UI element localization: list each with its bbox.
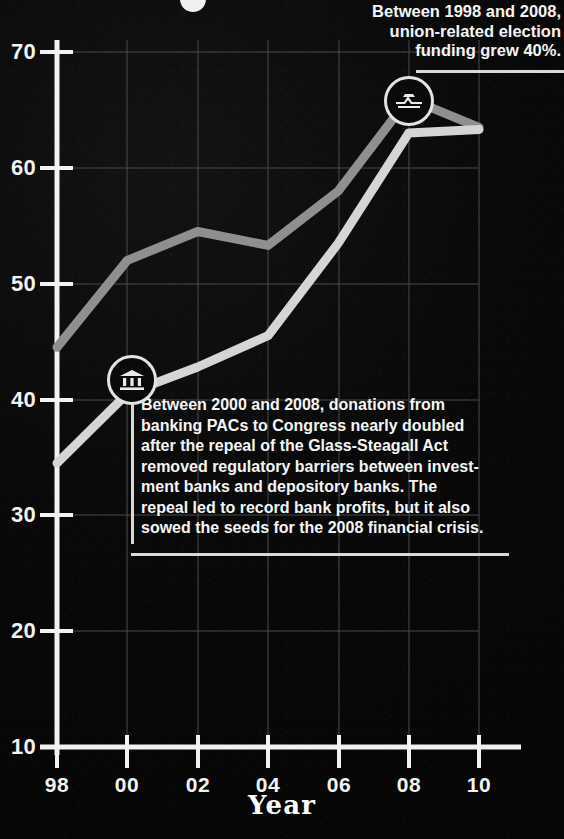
banking-annotation-line-1: Between 2000 and 2008, donations from — [141, 395, 519, 416]
x-axis-title: Year — [0, 790, 564, 820]
union-annotation-text: Between 1998 and 2008, union-related ele… — [325, 2, 561, 61]
bank-building-icon-marker[interactable] — [107, 355, 157, 405]
banking-annotation-text: Between 2000 and 2008, donations from ba… — [131, 392, 525, 544]
banking-annotation-line-3: after the repeal of the Glass-Steagall A… — [141, 436, 519, 457]
banking-annotation-line-2: banking PACs to Congress nearly doubled — [141, 416, 519, 437]
union-annotation-line-3: funding grew 40%. — [415, 41, 561, 59]
x-tick-marks — [57, 735, 479, 768]
banking-annotation-line-7: sowed the seeds for the 2008 financial c… — [141, 518, 519, 539]
y-tick-label: 70 — [11, 39, 36, 65]
y-tick-label: 10 — [11, 734, 36, 760]
banking-annotation-line-4: removed regulatory barriers between inve… — [141, 457, 519, 478]
banking-annotation-line-5: ment banks and depository banks. The — [141, 477, 519, 498]
y-tick-label: 30 — [11, 502, 36, 528]
union-handshake-icon — [395, 91, 423, 111]
union-annotation-rule — [416, 70, 564, 73]
y-tick-label: 60 — [11, 155, 36, 181]
union-handshake-icon-marker[interactable] — [384, 76, 434, 126]
y-tick-label: 50 — [11, 271, 36, 297]
chart-canvas: 70 60 50 40 30 20 10 98 00 02 04 06 08 1… — [0, 0, 564, 839]
banking-annotation-rule — [131, 553, 509, 556]
y-tick-label: 20 — [11, 618, 36, 644]
union-annotation-line-1: Between 1998 and 2008, — [372, 2, 561, 20]
y-tick-label: 40 — [11, 387, 36, 413]
union-annotation-line-2: union-related election — [390, 22, 561, 40]
banking-annotation-line-6: repeal led to record bank profits, but i… — [141, 498, 519, 519]
bank-building-icon — [119, 369, 145, 391]
